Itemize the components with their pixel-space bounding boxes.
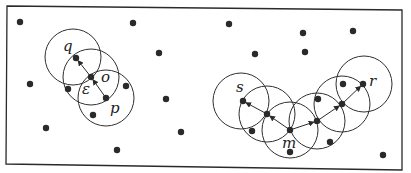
data-point-core-m-r-1 [314, 118, 320, 124]
data-point [252, 51, 258, 57]
data-point [130, 20, 136, 26]
data-point-m [287, 127, 293, 133]
data-point-q [73, 55, 79, 61]
label-epsilon: ε [82, 80, 90, 98]
data-point-p [103, 95, 109, 101]
data-point [65, 86, 71, 92]
data-point [315, 96, 321, 102]
data-point [17, 19, 23, 25]
data-point-s [240, 98, 246, 104]
point-labels: qoεpsmr [63, 37, 377, 152]
data-point [226, 21, 232, 27]
data-point [178, 129, 184, 135]
density-diagram: qoεpsmr [0, 0, 411, 173]
label-p: p [110, 99, 120, 117]
data-point [123, 83, 129, 89]
data-point [27, 81, 33, 87]
data-point [350, 28, 356, 34]
data-point [327, 139, 333, 145]
reachability-arrow [342, 86, 360, 104]
data-point [380, 152, 386, 158]
reachability-arrow [270, 116, 290, 130]
reachability-arrow [246, 103, 267, 114]
data-point [340, 81, 346, 87]
label-s: s [236, 78, 244, 96]
label-q: q [63, 37, 73, 55]
data-point [156, 50, 162, 56]
data-point [302, 49, 308, 55]
data-point-r [360, 81, 366, 87]
epsilon-neighborhood-circles [45, 29, 392, 158]
label-r: r [369, 72, 377, 90]
label-o: o [101, 68, 110, 86]
data-point [249, 128, 255, 134]
data-point-core-m-r-2 [339, 101, 345, 107]
label-m: m [282, 134, 296, 152]
data-point [163, 96, 169, 102]
data-point-core-s-m [264, 111, 270, 117]
data-point [300, 30, 306, 36]
reachability-arrow [317, 106, 339, 121]
data-point [114, 147, 120, 153]
data-point [90, 112, 96, 118]
data-point [43, 125, 49, 131]
